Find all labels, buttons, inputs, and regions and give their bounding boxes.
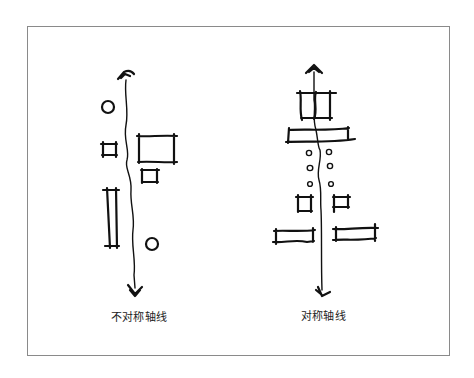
- axis-sketch-diagram: [0, 0, 474, 378]
- small-square-element: [101, 142, 117, 157]
- asymmetric-axis-caption: 不对称轴线: [111, 308, 167, 324]
- symmetric-axis-caption: 对称轴线: [301, 307, 346, 323]
- asymmetric-axis-line: [125, 80, 135, 288]
- arrow-up-icon: [118, 71, 134, 79]
- symmetric-axis-group: [273, 65, 378, 296]
- circle-element: [146, 238, 158, 250]
- large-rectangle-element: [137, 134, 177, 164]
- circle-element: [102, 101, 114, 113]
- dot-right: [326, 149, 331, 154]
- dot-right: [327, 163, 332, 168]
- tall-rectangle-element: [103, 188, 119, 248]
- small-rectangle-element: [141, 169, 159, 183]
- dot-left: [308, 182, 313, 187]
- axis-square-element: [297, 91, 336, 120]
- arrow-down-icon: [316, 287, 330, 296]
- dot-left: [306, 150, 311, 155]
- dot-right: [329, 182, 334, 187]
- axis-bar-element: [286, 127, 355, 143]
- flat-rectangle-right: [333, 224, 378, 241]
- flat-rectangle-left: [273, 228, 315, 244]
- asymmetric-axis-group: [101, 71, 177, 296]
- dot-left: [307, 165, 313, 170]
- small-square-right: [333, 195, 350, 212]
- small-square-left: [296, 195, 313, 212]
